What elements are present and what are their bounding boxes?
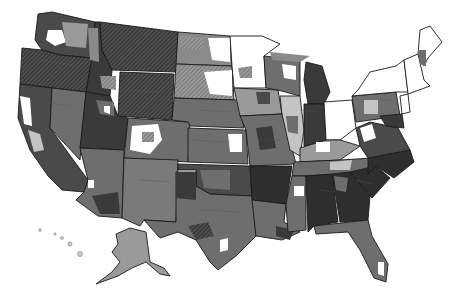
- region-indiana: [304, 104, 326, 146]
- region-wyoming: [118, 72, 174, 120]
- region-hawaii: [39, 229, 83, 257]
- region-new-mexico: [122, 158, 178, 226]
- region-ohio: [324, 100, 356, 140]
- region-new-jersey: [400, 94, 410, 114]
- region-montana: [100, 22, 178, 72]
- region-michigan: [304, 62, 330, 104]
- us-choropleth-map: [0, 0, 460, 298]
- region-florida: [314, 220, 388, 282]
- map-canvas: [0, 0, 460, 298]
- region-new-york: [352, 60, 408, 96]
- region-arkansas: [250, 166, 292, 204]
